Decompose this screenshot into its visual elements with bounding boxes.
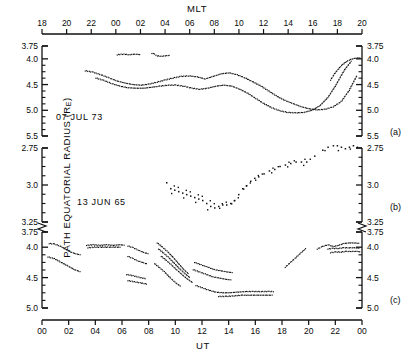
bottom-axis-tick-label: 08	[144, 326, 154, 336]
series-main-trace-upper	[85, 70, 358, 110]
ytick-label-right: 3.75	[367, 227, 384, 237]
ytick-label-left: 4.5	[26, 80, 38, 90]
ytick-label-left: 4.0	[26, 242, 38, 252]
series-seg-c-upper	[127, 246, 148, 255]
series-seg-f-rise	[285, 248, 306, 268]
series-seg-g-mid	[327, 247, 359, 250]
ytick-label-right: 4.0	[367, 242, 379, 252]
bottom-axis-tick-label: 18	[277, 326, 287, 336]
bottom-axis-tick-label: 00	[357, 326, 367, 336]
bottom-axis-tick-label: 20	[304, 326, 314, 336]
top-axis-tick-label: 06	[185, 18, 195, 28]
top-axis-tick-label: 20	[357, 18, 367, 28]
series-upper-fragment-2	[151, 53, 169, 57]
ytick-label-left: 5.0	[26, 303, 38, 313]
ytick-label-left: 3.75	[21, 227, 38, 237]
top-axis-tick-label: 22	[86, 18, 96, 28]
ytick-label-right: 4.5	[367, 273, 379, 283]
ytick-label-right: 5.0	[367, 303, 379, 313]
top-axis-tick-label: 18	[37, 18, 47, 28]
top-axis-tick-label: 04	[160, 18, 170, 28]
top-axis-tick-label: 12	[259, 18, 269, 28]
ytick-label-left: 5.5	[26, 131, 38, 141]
bottom-axis-tick-label: 14	[224, 326, 234, 336]
ytick-label-left: 4.0	[26, 54, 38, 64]
ytick-label-right: 3.0	[367, 180, 379, 190]
series-seg-d-3	[161, 256, 193, 283]
ytick-label-left: 3.25	[21, 217, 38, 227]
top-axis-tick-label: 08	[210, 18, 220, 28]
ytick-label-left: 3.75	[21, 41, 38, 51]
top-axis-tick-label: 20	[62, 18, 72, 28]
series-seg-c-mid	[127, 256, 147, 264]
ytick-label-right: 5.0	[367, 105, 379, 115]
ytick-label-right: 5.5	[367, 131, 379, 141]
top-axis-tick-label: 10	[234, 18, 244, 28]
bottom-axis-tick-label: 22	[331, 326, 341, 336]
series-main-trace-lower	[95, 61, 351, 114]
series-scatter-cloud	[166, 145, 358, 210]
bottom-axis-tick-label: 00	[37, 326, 47, 336]
series-seg-g-upper	[317, 242, 360, 250]
ytick-label-left: 4.5	[26, 273, 38, 283]
top-axis-tick-label: 18	[333, 18, 343, 28]
top-axis-tick-label: 00	[111, 18, 121, 28]
bottom-axis-tick-label: 10	[171, 326, 181, 336]
ytick-label-left: 5.0	[26, 105, 38, 115]
plot-canvas: 3.753.754.04.04.54.55.05.05.55.52.752.75…	[0, 0, 415, 357]
series-seg-d-2	[158, 249, 190, 278]
series-seg-c-lower2	[127, 280, 147, 285]
series-seg-a-lower	[47, 256, 80, 272]
ytick-label-right: 4.0	[367, 54, 379, 64]
bottom-axis-tick-label: 12	[197, 326, 207, 336]
series-seg-c-lower	[126, 274, 146, 279]
series-seg-a-upper	[49, 243, 81, 255]
ytick-label-right: 3.25	[367, 217, 384, 227]
axis-break-right	[358, 223, 366, 232]
series-seg-b-flat	[86, 244, 125, 246]
ytick-label-left: 3.0	[26, 180, 38, 190]
top-axis-tick-label: 16	[308, 18, 318, 28]
ytick-label-right: 3.75	[367, 41, 384, 51]
bottom-axis-tick-label: 04	[91, 326, 101, 336]
figure-root: MLT UT PATH EQUATORIAL RADIUS (RE) (a) (…	[0, 0, 415, 357]
top-axis-tick-label: 02	[136, 18, 146, 28]
series-seg-b-mid	[87, 246, 120, 248]
ytick-label-left: 2.75	[21, 143, 38, 153]
top-axis-tick-label: 14	[283, 18, 293, 28]
series-seg-g-low	[330, 251, 360, 254]
bottom-axis-tick-label: 06	[117, 326, 127, 336]
series-upper-fragment-1	[117, 53, 141, 55]
axis-break-left	[38, 223, 46, 232]
bottom-axis-tick-label: 16	[251, 326, 261, 336]
ytick-label-right: 4.5	[367, 80, 379, 90]
series-seg-e-low2	[218, 294, 273, 297]
series-seg-e-low	[195, 285, 274, 293]
bottom-axis-tick-label: 02	[64, 326, 74, 336]
ytick-label-right: 2.75	[367, 143, 384, 153]
